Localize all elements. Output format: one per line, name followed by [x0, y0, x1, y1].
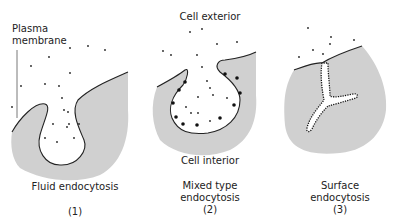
panel-2-number: (2): [160, 204, 260, 216]
panel-1-title: Fluid endocytosis: [20, 181, 130, 193]
panel-surface-endocytosis: [284, 27, 386, 154]
panel-fluid-endocytosis: [11, 45, 128, 180]
panel-1-caption: Fluid endocytosis: [20, 181, 130, 193]
cell-interior-label: Cell interior: [160, 155, 260, 167]
plasma-label-line1: Plasma: [12, 23, 67, 35]
panel-2-caption: Mixed type endocytosis (2): [160, 180, 260, 216]
panel-3-title-line1: Surface: [290, 180, 390, 192]
panel-2-title-line1: Mixed type: [160, 180, 260, 192]
endocytosis-diagram: Plasma membrane Cell exterior Cell inter…: [0, 0, 396, 223]
panel-1-number: (1): [20, 206, 130, 218]
plasma-membrane-label: Plasma membrane: [12, 23, 67, 47]
panel-3-number: (3): [290, 204, 390, 216]
cell-cytoplasm-2: [153, 52, 257, 155]
panel-2-title-line2: endocytosis: [160, 192, 260, 204]
panel-mixed-endocytosis: [153, 28, 257, 155]
cell-exterior-label: Cell exterior: [160, 11, 260, 23]
plasma-label-line2: membrane: [12, 35, 67, 47]
panel-3-title-line2: endocytosis: [290, 192, 390, 204]
panel-3-caption: Surface endocytosis (3): [290, 180, 390, 216]
